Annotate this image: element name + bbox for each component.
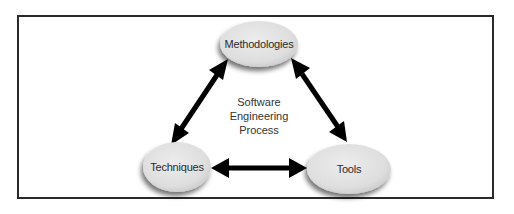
node-label-techniques: Techniques — [150, 161, 204, 173]
center-label: Software Engineering Process — [230, 95, 289, 137]
node-label-tools: Tools — [337, 163, 362, 175]
center-label-line-1: Software — [230, 95, 289, 109]
node-label-methodologies: Methodologies — [225, 38, 294, 50]
center-label-line-3: Process — [230, 123, 289, 137]
arrow-methodologies-tools — [291, 58, 347, 142]
arrow-techniques-methodologies — [171, 59, 228, 145]
arrow-techniques-tools — [211, 158, 307, 178]
center-label-line-2: Engineering — [230, 109, 289, 123]
